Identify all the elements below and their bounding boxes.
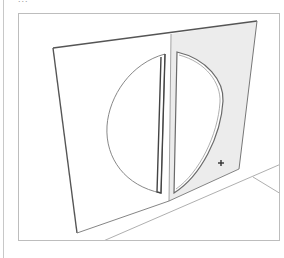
figure-caption: ... xyxy=(18,0,29,4)
modeling-viewport[interactable] xyxy=(18,13,280,241)
page-margin-rule xyxy=(3,0,4,258)
scene-canvas[interactable] xyxy=(19,14,280,241)
